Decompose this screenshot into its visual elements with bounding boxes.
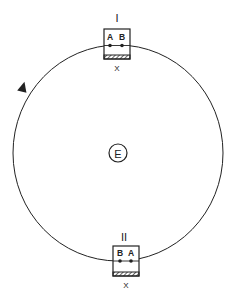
bottom-point-b (118, 259, 122, 263)
orbit-diagram: E I A B X II B A X (0, 0, 230, 296)
center-label: E (114, 148, 121, 160)
bottom-station: II B A X (113, 231, 139, 290)
bottom-point-a-label: A (128, 248, 134, 258)
top-point-b-label: B (119, 32, 125, 42)
bottom-point-a (129, 259, 133, 263)
bottom-point-b-label: B (117, 248, 123, 258)
top-station-hatch (104, 55, 130, 59)
top-point-a (108, 44, 112, 48)
top-base-label: X (114, 64, 120, 73)
top-point-a-label: A (107, 32, 113, 42)
top-point-b (120, 44, 124, 48)
bottom-station-label: II (121, 231, 127, 243)
direction-arrow-icon (16, 82, 26, 94)
bottom-station-hatch (113, 272, 139, 276)
top-station: I A B X (12, 12, 224, 98)
bottom-base-label: X (123, 281, 129, 290)
top-station-label: I (115, 12, 118, 24)
